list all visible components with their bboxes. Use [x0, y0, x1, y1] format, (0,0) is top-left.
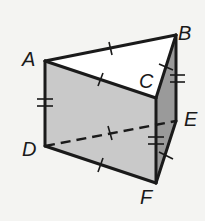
vertex-label-d: D	[22, 138, 36, 160]
prism-diagram: A B C D E F	[0, 0, 205, 221]
vertex-label-e: E	[184, 108, 198, 130]
prism-figure: A B C D E F	[0, 0, 205, 221]
vertex-label-b: B	[178, 22, 191, 44]
vertex-label-a: A	[21, 48, 35, 70]
vertex-label-c: C	[139, 70, 154, 92]
vertex-label-f: F	[140, 186, 154, 208]
